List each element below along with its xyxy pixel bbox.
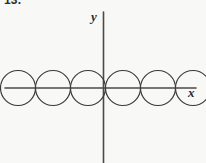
figure-container: 13. y x: [0, 0, 206, 163]
x-axis-label: x: [187, 85, 195, 100]
coordinate-graph: y x: [0, 0, 206, 163]
y-axis-label: y: [89, 9, 97, 24]
